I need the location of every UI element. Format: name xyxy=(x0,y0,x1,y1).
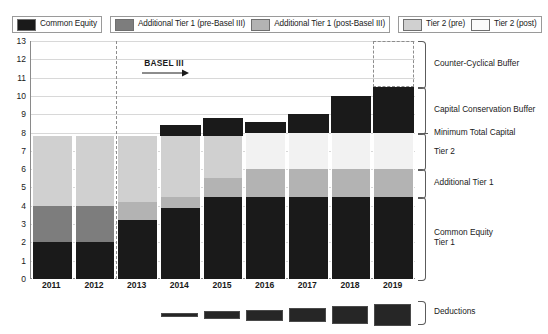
anno-capital-conservation-buffer: Capital Conservation Buffer xyxy=(434,105,535,115)
deductions-bars xyxy=(30,297,414,331)
anno-common-equity-tier-1: Common EquityTier 1 xyxy=(434,228,493,248)
bar-segment-2016-capital-conservation-buffer xyxy=(245,122,286,133)
bar-segment-2012-tier-2-pre xyxy=(75,136,116,206)
bar-series-container xyxy=(31,41,415,279)
bar-column-2014[interactable] xyxy=(160,41,201,279)
bar-segment-2017-tier-2-post xyxy=(288,133,329,170)
y-tick-2: 2 xyxy=(0,238,26,247)
bar-segment-2011-additional-tier-1-pre-basel-iii xyxy=(32,206,73,243)
bar-segment-2013-common-equity xyxy=(117,220,158,279)
x-tick-2015: 2015 xyxy=(201,281,244,290)
legend-label-tier-2-pre: Tier 2 (pre) xyxy=(426,20,465,28)
bar-column-2013[interactable] xyxy=(117,41,158,279)
y-tick-6: 6 xyxy=(0,165,26,174)
y-tick-5: 5 xyxy=(0,183,26,192)
y-tick-12: 12 xyxy=(0,55,26,64)
y-tick-11: 11 xyxy=(0,73,26,82)
deduction-bar-2016[interactable] xyxy=(246,310,283,321)
bar-segment-2018-capital-conservation-buffer xyxy=(331,96,372,133)
legend-label-additional-tier-1-pre: Additional Tier 1 (pre-Basel III) xyxy=(138,20,245,28)
y-tick-13: 13 xyxy=(0,37,26,46)
x-tick-2018: 2018 xyxy=(329,281,372,290)
bar-segment-2014-additional-tier-1-post-basel-iii xyxy=(160,197,201,208)
brace-common-equity-tier-1 xyxy=(418,197,426,281)
swatch-tier-2-post-icon xyxy=(471,19,490,31)
bar-column-2016[interactable] xyxy=(245,41,286,279)
x-axis-tick-labels: 201120122013201420152016201720182019 xyxy=(30,281,414,295)
bar-segment-2017-capital-conservation-buffer xyxy=(288,114,329,132)
legend-label-additional-tier-1-post: Additional Tier 1 (post-Basel III) xyxy=(274,20,385,28)
legend-item-tier-2-pre: Tier 2 (pre) xyxy=(403,19,465,31)
deduction-bar-2015[interactable] xyxy=(204,311,241,320)
bar-segment-2015-tier-2-pre xyxy=(203,136,244,178)
bar-segment-2014-tier-2-pre xyxy=(160,136,201,196)
brace-capital-conservation xyxy=(418,87,426,135)
legend-group-additional-tier-1: Additional Tier 1 (pre-Basel III) Additi… xyxy=(110,16,390,33)
legend-item-common-equity: Common Equity xyxy=(17,19,97,31)
bar-segment-2011-common-equity xyxy=(32,242,73,279)
y-tick-4: 4 xyxy=(0,202,26,211)
bar-segment-2016-tier-2-post xyxy=(245,133,286,170)
x-tick-2016: 2016 xyxy=(243,281,286,290)
anno-tier-2: Tier 2 xyxy=(434,147,455,157)
bar-column-2017[interactable] xyxy=(288,41,329,279)
legend-item-additional-tier-1-post: Additional Tier 1 (post-Basel III) xyxy=(251,19,385,31)
swatch-additional-tier-1-post-icon xyxy=(251,19,270,31)
bar-segment-2013-additional-tier-1-post-basel-iii xyxy=(117,202,158,220)
right-annotations: Counter-Cyclical BufferCapital Conservat… xyxy=(414,41,548,331)
x-tick-2011: 2011 xyxy=(30,281,73,290)
deduction-bar-2017[interactable] xyxy=(289,308,326,321)
x-tick-2013: 2013 xyxy=(115,281,158,290)
bar-segment-2016-additional-tier-1-post-basel-iii xyxy=(245,169,286,196)
chart-legend: Common Equity Additional Tier 1 (pre-Bas… xyxy=(12,16,542,33)
bar-segment-2015-common-equity xyxy=(203,197,244,279)
legend-item-tier-2-post: Tier 2 (post) xyxy=(471,19,537,31)
deduction-bar-2014[interactable] xyxy=(161,313,198,317)
legend-group-tier-2: Tier 2 (pre) Tier 2 (post) xyxy=(398,16,542,33)
bar-segment-2012-common-equity xyxy=(75,242,116,279)
y-tick-9: 9 xyxy=(0,110,26,119)
y-tick-10: 10 xyxy=(0,92,26,101)
x-tick-2014: 2014 xyxy=(158,281,201,290)
bar-column-2011[interactable] xyxy=(32,41,73,279)
bar-segment-2017-common-equity xyxy=(288,197,329,279)
bar-segment-2015-capital-conservation-buffer xyxy=(203,118,244,136)
y-tick-1: 1 xyxy=(0,256,26,265)
deduction-bar-2018[interactable] xyxy=(332,306,369,325)
legend-group-common-equity: Common Equity xyxy=(12,16,102,33)
bar-segment-2014-common-equity xyxy=(160,208,201,279)
counter-cyclical-buffer-box xyxy=(373,41,414,87)
anno-counter-cyclical-buffer: Counter-Cyclical Buffer xyxy=(434,59,519,69)
brace-tier-2 xyxy=(418,133,426,172)
bar-segment-2017-additional-tier-1-post-basel-iii xyxy=(288,169,329,196)
brace-deductions xyxy=(418,301,426,325)
swatch-tier-2-pre-icon xyxy=(403,19,422,31)
swatch-additional-tier-1-pre-icon xyxy=(115,19,134,31)
bar-segment-2012-additional-tier-1-pre-basel-iii xyxy=(75,206,116,243)
bar-column-2012[interactable] xyxy=(75,41,116,279)
y-tick-8: 8 xyxy=(0,128,26,137)
anno-additional-tier-1: Additional Tier 1 xyxy=(434,178,494,188)
bar-segment-2013-tier-2-pre xyxy=(117,136,158,202)
x-tick-2012: 2012 xyxy=(73,281,116,290)
bar-segment-2019-additional-tier-1-post-basel-iii xyxy=(373,169,414,196)
deduction-bar-2019[interactable] xyxy=(374,304,411,326)
brace-additional-tier-1 xyxy=(418,169,426,198)
bar-column-2015[interactable] xyxy=(203,41,244,279)
plot-canvas: BASEL III xyxy=(30,41,415,279)
x-tick-2019: 2019 xyxy=(371,281,414,290)
bar-segment-2019-capital-conservation-buffer xyxy=(373,87,414,133)
bar-segment-2015-additional-tier-1-post-basel-iii xyxy=(203,178,244,196)
chart-root: Common Equity Additional Tier 1 (pre-Bas… xyxy=(0,0,548,334)
anno-deductions: Deductions xyxy=(434,307,476,317)
legend-item-additional-tier-1-pre: Additional Tier 1 (pre-Basel III) xyxy=(115,19,245,31)
bar-segment-2016-common-equity xyxy=(245,197,286,279)
x-tick-2017: 2017 xyxy=(286,281,329,290)
bar-segment-2018-common-equity xyxy=(331,197,372,279)
bar-segment-2019-common-equity xyxy=(373,197,414,279)
bar-segment-2018-tier-2-post xyxy=(331,133,372,170)
bar-column-2018[interactable] xyxy=(331,41,372,279)
legend-label-tier-2-post: Tier 2 (post) xyxy=(494,20,537,28)
bar-segment-2019-tier-2-post xyxy=(373,133,414,170)
y-tick-3: 3 xyxy=(0,220,26,229)
